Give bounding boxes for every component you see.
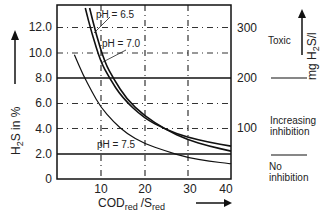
svg-text:200: 200 (237, 71, 257, 85)
svg-text:100: 100 (237, 121, 257, 135)
y-axis-ticks: 12.0 10.0 8.0 6.0 4.0 2.0 0 (29, 20, 53, 186)
zone-increasing-label-2: inhibition (270, 126, 309, 137)
svg-text:0: 0 (45, 172, 52, 186)
svg-text:2.0: 2.0 (35, 147, 52, 161)
zone-toxic-label: Toxic (268, 35, 291, 46)
svg-text:6.0: 6.0 (35, 96, 52, 110)
svg-text:30: 30 (183, 182, 197, 196)
svg-text:12.0: 12.0 (29, 20, 53, 34)
x-axis-label: CODred/Sred (98, 196, 165, 211)
zone-no-label-1: No (269, 161, 282, 172)
h2s-inhibition-chart: pH = 6.5 pH = 7.0 pH = 7.5 12.0 10.0 8.0… (0, 0, 334, 211)
y2-arrowhead-icon (298, 9, 306, 18)
x-arrowhead-icon (224, 199, 232, 207)
svg-text:H2S in %: H2S in % (9, 106, 25, 155)
leader-ph-7-0 (101, 50, 126, 63)
grid (57, 5, 231, 179)
zone-no-label-2: inhibition (269, 172, 308, 183)
svg-text:8.0: 8.0 (35, 71, 52, 85)
svg-text:40: 40 (219, 182, 233, 196)
svg-text:300: 300 (237, 21, 257, 35)
plot-frame (57, 5, 231, 179)
y2-axis-label: mg H2S/l (305, 32, 321, 80)
y2-axis-ticks: 300 200 100 (237, 21, 257, 135)
label-ph-7-5: pH = 7.5 (97, 139, 136, 150)
svg-text:10.0: 10.0 (29, 46, 53, 60)
y-arrowhead-icon (11, 30, 19, 40)
svg-text:20: 20 (138, 182, 152, 196)
zone-increasing-label-1: Increasing (270, 115, 316, 126)
svg-text:4.0: 4.0 (35, 122, 52, 136)
label-ph-7-0: pH = 7.0 (102, 38, 141, 49)
y-axis-label: H2S in % (9, 106, 25, 155)
svg-text:mg H2S/l: mg H2S/l (305, 32, 321, 80)
label-ph-6-5: pH = 6.5 (96, 9, 135, 20)
svg-text:10: 10 (94, 182, 108, 196)
x-axis-ticks: 10 20 30 40 (94, 182, 233, 196)
